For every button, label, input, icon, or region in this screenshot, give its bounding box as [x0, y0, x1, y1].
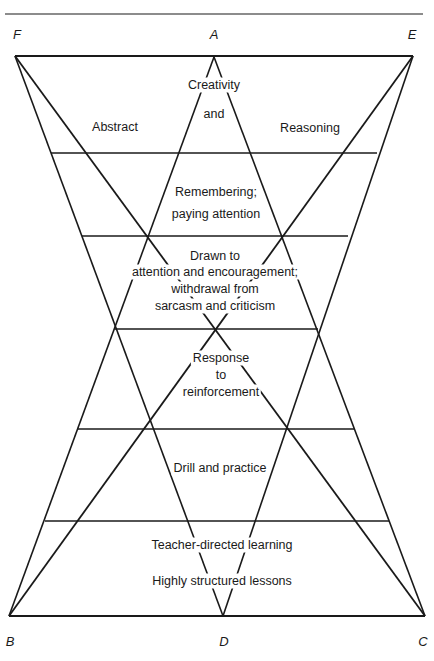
band-1-side-left: Abstract: [90, 120, 140, 135]
vertex-label-F: F: [13, 27, 21, 42]
band-3-line-2: attention and encouragement;: [130, 265, 300, 280]
vertex-label-E: E: [408, 27, 417, 42]
band-3-line-1: Drawn to: [188, 249, 242, 264]
vertex-label-C: C: [418, 634, 427, 649]
band-6-line-1: Teacher-directed learning: [149, 538, 294, 553]
inner-D-E: [223, 56, 413, 616]
band-1-line-1: Creativity: [186, 78, 242, 93]
band-2-line-1: Remembering;: [173, 185, 259, 200]
band-1-side-right: Reasoning: [278, 121, 342, 136]
diagonal-E-B: [9, 56, 413, 616]
band-5-line-1: Drill and practice: [171, 461, 268, 476]
band-3-line-4: sarcasm and criticism: [153, 299, 277, 314]
inner-A-C: [214, 57, 425, 616]
band-6-line-2: Highly structured lessons: [150, 574, 294, 589]
vertex-label-D: D: [219, 634, 228, 649]
band-4-line-3: reinforcement: [181, 385, 261, 400]
band-4-line-1: Response: [191, 351, 251, 366]
vertex-label-B: B: [6, 634, 15, 649]
vertex-label-A: A: [210, 27, 219, 42]
band-3-line-3: withdrawal from: [169, 282, 261, 297]
band-4-line-2: to: [214, 368, 228, 383]
inner-A-B: [9, 57, 214, 616]
inner-D-F: [15, 56, 223, 616]
band-2-line-2: paying attention: [170, 207, 262, 222]
hourglass-diagram: [0, 0, 434, 661]
band-1-line-2: and: [202, 107, 227, 122]
diagonal-F-C: [15, 56, 425, 616]
